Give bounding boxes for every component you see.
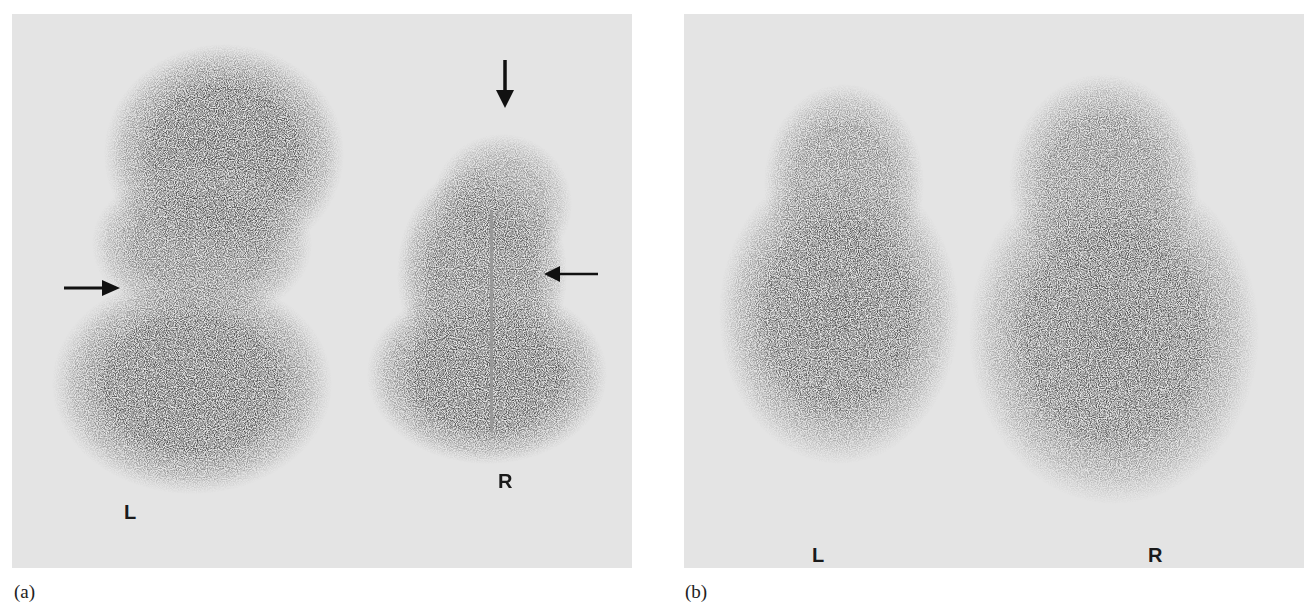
- arrow-right-icon: [64, 278, 120, 298]
- left-side-label: L: [124, 501, 136, 524]
- lung-scan-image-b: [684, 14, 1304, 568]
- scan-panel-b: L R: [684, 14, 1304, 568]
- panel-caption-a: (a): [14, 581, 35, 603]
- arrow-left-icon: [544, 264, 598, 284]
- left-side-label: L: [812, 544, 824, 567]
- arrow-down-icon: [495, 60, 515, 108]
- panel-caption-b: (b): [685, 581, 707, 603]
- right-side-label: R: [498, 470, 512, 493]
- catheter-line: [490, 210, 493, 432]
- scan-panel-a: L R: [12, 14, 632, 568]
- right-side-label: R: [1148, 544, 1162, 567]
